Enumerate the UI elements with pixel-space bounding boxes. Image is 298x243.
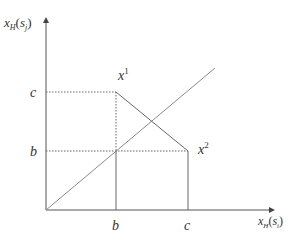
diagram-canvas: xH(sj) xH(si) c b b c x1 x2 (0, 0, 298, 243)
x-tick-c: c (184, 218, 191, 233)
y-axis-label: xH(sj) (3, 15, 32, 32)
y-tick-b: b (30, 144, 37, 159)
y-tick-c: c (30, 85, 37, 100)
point-x1-label: x1 (117, 66, 129, 83)
x-axis-label: xH(si) (257, 214, 283, 230)
diagonal-line (46, 68, 215, 210)
point-x2-label: x2 (197, 140, 209, 157)
x-tick-b: b (112, 218, 119, 233)
